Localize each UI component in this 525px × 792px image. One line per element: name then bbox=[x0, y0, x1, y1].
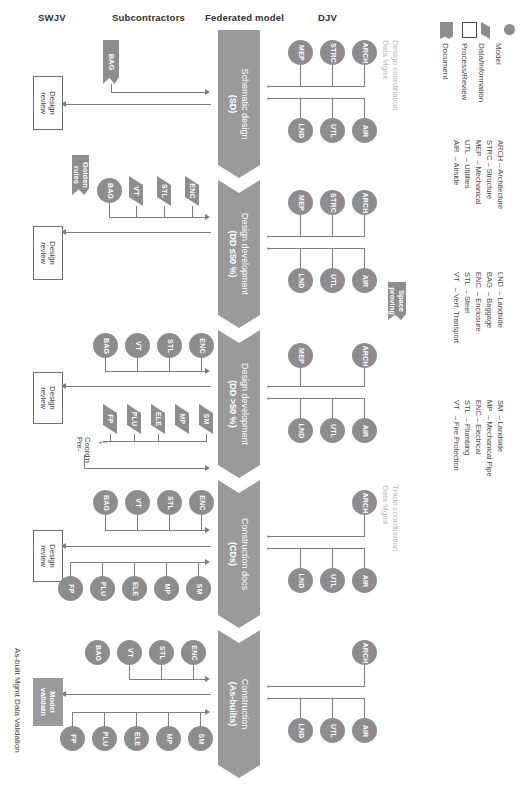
arrow-head-right bbox=[205, 709, 210, 715]
djv-node-mep-3[interactable]: MEP bbox=[288, 343, 313, 368]
connector bbox=[66, 104, 211, 105]
connector bbox=[84, 455, 85, 469]
connector bbox=[300, 98, 301, 118]
connector bbox=[134, 562, 135, 577]
sub-node-enc-4[interactable]: ENC bbox=[189, 490, 214, 515]
sub-node-fp-4[interactable]: FP bbox=[58, 576, 83, 601]
arrow-head-right bbox=[205, 676, 210, 682]
sub-data-vt-2[interactable]: VT bbox=[129, 176, 143, 206]
connector bbox=[84, 468, 206, 469]
djv-node-lnd-4[interactable]: LND bbox=[288, 568, 313, 593]
doc-space-proving[interactable]: Spaceproving bbox=[388, 282, 406, 320]
phase-design-development-50[interactable]: Design development(DD ≤50 %) bbox=[218, 180, 260, 328]
phase-construction-docs[interactable]: Construction docs(CDs) bbox=[218, 480, 260, 628]
sub-node-stl-3[interactable]: STL bbox=[157, 333, 182, 358]
abbr-arch: ARCH – Architecture bbox=[495, 140, 505, 209]
djv-node-air-1[interactable]: AIR bbox=[352, 118, 377, 143]
djv-node-lnd-2[interactable]: LND bbox=[288, 268, 313, 293]
djv-node-arch-3[interactable]: ARCH bbox=[352, 343, 377, 368]
abbr-strc: STRC – Structure bbox=[484, 140, 494, 199]
sub-node-ele-4[interactable]: ELE bbox=[122, 576, 147, 601]
djv-node-utl-4[interactable]: UTL bbox=[320, 568, 345, 593]
sub-data-fp-3[interactable]: FP bbox=[103, 404, 117, 434]
djv-node-mep-1[interactable]: MEP bbox=[288, 40, 313, 65]
phase-label-dd50p: Design development(DD >50 %) bbox=[227, 363, 251, 445]
djv-node-air-5[interactable]: AIR bbox=[352, 718, 377, 743]
sub-node-sm-4[interactable]: SM bbox=[186, 576, 211, 601]
sub-data-stl-2[interactable]: STL bbox=[157, 176, 171, 206]
djv-node-air-2[interactable]: AIR bbox=[352, 268, 377, 293]
sub-data-ele-3[interactable]: ELE bbox=[151, 404, 165, 434]
model-validation-box[interactable]: Modelvalidatn bbox=[33, 678, 63, 726]
arrow-head-right bbox=[205, 368, 210, 374]
sub-doc-bag-1[interactable]: BAG bbox=[103, 40, 119, 84]
djv-node-arch-1[interactable]: ARCH bbox=[352, 40, 377, 65]
connector bbox=[105, 530, 206, 531]
diagram-canvas: SWJV Subcontractors Federated model DJV … bbox=[0, 0, 525, 792]
connector bbox=[300, 248, 301, 268]
sub-node-sm-5[interactable]: SM bbox=[188, 726, 213, 751]
review-box-1[interactable]: Designreview bbox=[33, 76, 63, 130]
sub-data-mp-3[interactable]: MP bbox=[175, 404, 189, 434]
connector bbox=[105, 371, 206, 372]
djv-node-air-4[interactable]: AIR bbox=[352, 568, 377, 593]
connector bbox=[364, 548, 365, 568]
review-box-2[interactable]: Designreview bbox=[33, 226, 63, 280]
connector bbox=[66, 386, 211, 387]
sub-node-enc-3[interactable]: ENC bbox=[189, 333, 214, 358]
review-box-3[interactable]: Designreview bbox=[33, 372, 63, 424]
phase-schematic-design[interactable]: Schematic design(SD) bbox=[218, 30, 260, 178]
djv-node-air-3[interactable]: AIR bbox=[352, 418, 377, 443]
connector bbox=[364, 698, 365, 718]
connector bbox=[364, 398, 365, 418]
arrow-head-left: ← bbox=[96, 436, 109, 446]
caption-trade-coordination: Trade coordination bbox=[390, 485, 400, 551]
sub-node-stl-5[interactable]: STL bbox=[149, 640, 174, 665]
phase-label-cds: Construction docs(CDs) bbox=[227, 518, 251, 590]
djv-node-mep-2[interactable]: MEP bbox=[288, 190, 313, 215]
sub-node-stl-4[interactable]: STL bbox=[157, 490, 182, 515]
connector bbox=[109, 217, 206, 218]
sub-data-plu-3[interactable]: PLU bbox=[127, 404, 141, 434]
djv-node-lnd-1[interactable]: LND bbox=[288, 118, 313, 143]
sub-node-bag-3[interactable]: BAG bbox=[93, 333, 118, 358]
sub-node-bag-5[interactable]: BAG bbox=[85, 640, 110, 665]
sub-node-plu-5[interactable]: PLU bbox=[92, 726, 117, 751]
sub-node-mp-4[interactable]: MP bbox=[154, 576, 179, 601]
connector bbox=[66, 546, 211, 547]
djv-node-utl-2[interactable]: UTL bbox=[320, 268, 345, 293]
sub-node-ele-5[interactable]: ELE bbox=[124, 726, 149, 751]
sub-data-enc-2[interactable]: ENC bbox=[185, 176, 199, 206]
sub-node-vt-3[interactable]: VT bbox=[125, 333, 150, 358]
arrow-head-left: ← bbox=[264, 692, 277, 702]
sub-node-fp-5[interactable]: FP bbox=[60, 726, 85, 751]
sub-node-bag-4[interactable]: BAG bbox=[93, 490, 118, 515]
djv-node-lnd-3[interactable]: LND bbox=[288, 418, 313, 443]
djv-node-arch-4[interactable]: ARCH bbox=[352, 490, 377, 515]
phase-construction-asbuilts[interactable]: Construction(As-builts) bbox=[218, 630, 260, 778]
djv-node-arch-2[interactable]: ARCH bbox=[352, 190, 377, 215]
djv-node-strc-2[interactable]: STRC bbox=[320, 190, 345, 215]
djv-node-lnd-5[interactable]: LND bbox=[288, 718, 313, 743]
sub-node-bag-2[interactable]: BAG bbox=[97, 178, 122, 203]
sub-node-mp-5[interactable]: MP bbox=[156, 726, 181, 751]
sub-node-vt-4[interactable]: VT bbox=[125, 490, 150, 515]
sub-node-enc-5[interactable]: ENC bbox=[181, 640, 206, 665]
arrow-head-left: ← bbox=[264, 242, 277, 252]
doc-golden-rules[interactable]: Goldenrules bbox=[72, 155, 89, 195]
connector bbox=[332, 248, 333, 268]
sub-node-vt-5[interactable]: VT bbox=[117, 640, 142, 665]
review-box-4[interactable]: Designreview bbox=[33, 530, 63, 582]
djv-node-utl-5[interactable]: UTL bbox=[320, 718, 345, 743]
djv-node-utl-3[interactable]: UTL bbox=[320, 418, 345, 443]
connector bbox=[300, 698, 301, 718]
abbr-enc2: ENC – Electrical bbox=[473, 400, 483, 455]
connector bbox=[364, 368, 365, 386]
djv-node-arch-5[interactable]: ARCH bbox=[352, 640, 377, 665]
sub-node-plu-4[interactable]: PLU bbox=[90, 576, 115, 601]
abbr-air: AIR – Airside bbox=[451, 140, 461, 185]
djv-node-strc-1[interactable]: STRC bbox=[320, 40, 345, 65]
djv-node-utl-1[interactable]: UTL bbox=[320, 118, 345, 143]
sub-data-sm-3[interactable]: SM bbox=[199, 404, 213, 434]
phase-design-development-50-plus[interactable]: Design development(DD >50 %) bbox=[218, 330, 260, 478]
